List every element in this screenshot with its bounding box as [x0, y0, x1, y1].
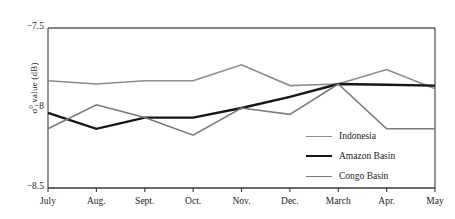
- x-tick-label-8: May: [426, 196, 443, 206]
- legend-item-congo-basin[interactable]: Congo Basin: [306, 166, 432, 186]
- series-line-amazon-basin: [48, 84, 435, 129]
- x-tick-label-2: Sept.: [135, 196, 154, 206]
- legend-swatch-line-icon: [306, 155, 332, 157]
- x-tick-label-7: Apr.: [378, 196, 395, 206]
- plot-area: [0, 0, 455, 219]
- x-tick-label-4: Nov.: [232, 196, 250, 206]
- legend-item-indonesia[interactable]: Indonesia: [306, 126, 432, 146]
- legend-item-amazon-basin[interactable]: Amazon Basin: [306, 146, 432, 166]
- line-chart: σ0 value (dB) −7.5 −8 −8.5 JulyAug.Sept.…: [0, 0, 455, 219]
- series-layer: [48, 65, 435, 135]
- x-tick-label-6: March: [326, 196, 351, 206]
- x-tick-label-3: Oct.: [185, 196, 201, 206]
- legend-swatch-line-icon: [306, 176, 332, 177]
- x-tick-label-5: Dec.: [281, 196, 299, 206]
- x-tick-label-0: July: [40, 196, 56, 206]
- x-tick-label-1: Aug.: [87, 196, 106, 206]
- legend-label: Amazon Basin: [339, 151, 395, 161]
- chart-legend: IndonesiaAmazon BasinCongo Basin: [306, 126, 432, 186]
- legend-label: Congo Basin: [339, 171, 388, 181]
- legend-label: Indonesia: [339, 131, 376, 141]
- legend-swatch-line-icon: [306, 136, 332, 137]
